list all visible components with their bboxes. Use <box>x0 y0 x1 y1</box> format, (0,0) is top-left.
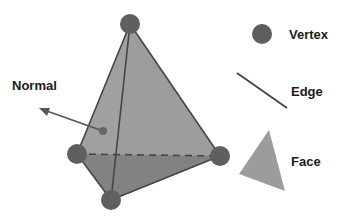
edge-line-icon <box>237 73 287 108</box>
vertex-dot-icon <box>252 24 272 44</box>
legend-vertex-label: Vertex <box>289 27 329 42</box>
vertex-top <box>120 14 140 34</box>
vertex-right <box>210 146 230 166</box>
legend-face-label: Face <box>291 154 321 169</box>
vertex-left <box>67 144 87 164</box>
normal-label: Normal <box>12 78 57 93</box>
face-triangle-icon <box>239 130 285 191</box>
bottom-face <box>77 154 220 200</box>
tetrahedron-diagram: Normal Vertex Edge Face <box>0 0 339 219</box>
vertex-bottom <box>101 190 121 210</box>
legend-edge-label: Edge <box>291 84 323 99</box>
